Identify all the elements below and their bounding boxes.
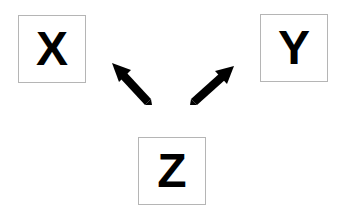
arrow-z-to-y-icon: [190, 66, 234, 105]
arrow-z-to-x-icon: [112, 63, 152, 105]
edges: [0, 0, 345, 215]
